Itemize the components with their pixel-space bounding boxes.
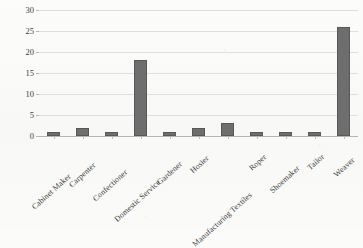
bar-slot (68, 10, 97, 136)
bar-slot (300, 10, 329, 136)
y-tick-mark (36, 136, 39, 137)
x-tick-label-text: Cabinet Maker (30, 172, 72, 212)
x-tick-mark (170, 136, 171, 139)
bar-series (39, 10, 358, 136)
bar-slot (184, 10, 213, 136)
y-tick-label: 15 (26, 69, 35, 78)
bar[interactable] (221, 123, 234, 136)
y-tick-label: 20 (26, 48, 35, 57)
x-tick-mark (228, 136, 229, 139)
x-tick-mark (54, 136, 55, 139)
bar-slot (39, 10, 68, 136)
x-tick-label-text: Manufacturing Textiles (190, 190, 253, 248)
y-tick-label: 5 (30, 111, 34, 120)
x-tick-mark (112, 136, 113, 139)
x-tick-mark (344, 136, 345, 139)
x-tick-label-text: Weaver (331, 156, 355, 179)
bar-slot (271, 10, 300, 136)
x-tick-mark (83, 136, 84, 139)
x-tick-mark (286, 136, 287, 139)
y-tick-label: 30 (26, 6, 35, 15)
x-axis-labels: Cabinet MakerCarpenterConfectionerDomest… (39, 139, 358, 225)
bar-slot (97, 10, 126, 136)
bar-slot (126, 10, 155, 136)
x-tick-label: Confectioner (123, 139, 161, 174)
x-tick-label: Weaver (350, 139, 363, 162)
x-tick-label-text: Confectioner (91, 168, 129, 203)
bar-slot (242, 10, 271, 136)
plot-area: 051015202530 (39, 10, 358, 136)
x-tick-mark (315, 136, 316, 139)
y-tick-label: 25 (26, 27, 35, 36)
bar-slot (155, 10, 184, 136)
bar[interactable] (134, 60, 147, 136)
bar-slot (213, 10, 242, 136)
x-tick-label: Roper (262, 139, 283, 159)
x-tick-mark (141, 136, 142, 139)
x-tick-label-text: Domestic Service (112, 178, 161, 224)
bar[interactable] (76, 128, 89, 136)
y-tick-label: 0 (30, 132, 34, 141)
bar-slot (329, 10, 358, 136)
y-tick-label: 10 (26, 90, 35, 99)
x-tick-label-text: Roper (247, 152, 268, 172)
x-tick-label: Hosier (204, 139, 226, 160)
bar[interactable] (337, 27, 350, 136)
x-tick-label-text: Gardener (155, 159, 184, 186)
x-tick-mark (257, 136, 258, 139)
bar[interactable] (192, 128, 205, 136)
x-tick-mark (199, 136, 200, 139)
